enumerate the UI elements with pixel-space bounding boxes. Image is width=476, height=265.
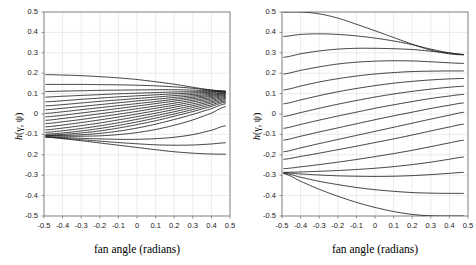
y-tick-label: 0.5	[244, 7, 276, 16]
y-tick-label: -0.3	[244, 170, 276, 179]
chart-panel-left: h(γ, ψ) fan angle (radians) 0.50.40.30.2…	[0, 0, 238, 265]
y-tick-label: 0	[6, 109, 38, 118]
y-tick-label: -0.3	[6, 170, 38, 179]
y-tick-label: -0.5	[244, 211, 276, 220]
y-tick-label: -0.2	[244, 150, 276, 159]
chart-panel-right: h(γ, ψ) fan angle (radians) 0.50.40.30.2…	[238, 0, 476, 265]
y-tick-label: 0.5	[6, 7, 38, 16]
y-tick-label: 0.4	[6, 27, 38, 36]
y-tick-label: -0.4	[244, 191, 276, 200]
y-tick-label: 0.2	[244, 68, 276, 77]
y-tick-label: 0.4	[244, 27, 276, 36]
figure-container: h(γ, ψ) fan angle (radians) 0.50.40.30.2…	[0, 0, 476, 265]
y-tick-label: 0	[244, 109, 276, 118]
y-tick-label: -0.5	[6, 211, 38, 220]
y-tick-label: -0.4	[6, 191, 38, 200]
x-axis-title-left: fan angle (radians)	[44, 243, 230, 255]
y-tick-label: -0.1	[6, 129, 38, 138]
y-tick-label: 0.2	[6, 68, 38, 77]
y-tick-label: 0.3	[6, 48, 38, 57]
y-tick-label: 0.1	[6, 89, 38, 98]
x-axis-title-right: fan angle (radians)	[282, 243, 468, 255]
y-tick-label: -0.1	[244, 129, 276, 138]
y-tick-label: 0.3	[244, 48, 276, 57]
y-tick-label: 0.2	[6, 150, 38, 159]
x-tick-label: 0.5	[456, 221, 476, 230]
y-tick-label: 0.1	[244, 89, 276, 98]
